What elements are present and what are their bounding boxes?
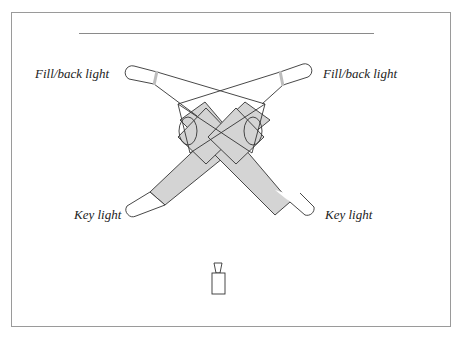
label-key-right: Key light bbox=[325, 207, 372, 223]
lighting-diagram bbox=[0, 0, 464, 341]
label-key-left: Key light bbox=[74, 207, 121, 223]
fill-lamp-right bbox=[280, 64, 312, 85]
label-fill-back-left: Fill/back light bbox=[35, 66, 109, 82]
label-fill-back-right: Fill/back light bbox=[323, 66, 397, 82]
camera-body bbox=[212, 273, 225, 294]
camera-lens bbox=[214, 263, 222, 273]
fill-lamp-left bbox=[125, 66, 157, 84]
